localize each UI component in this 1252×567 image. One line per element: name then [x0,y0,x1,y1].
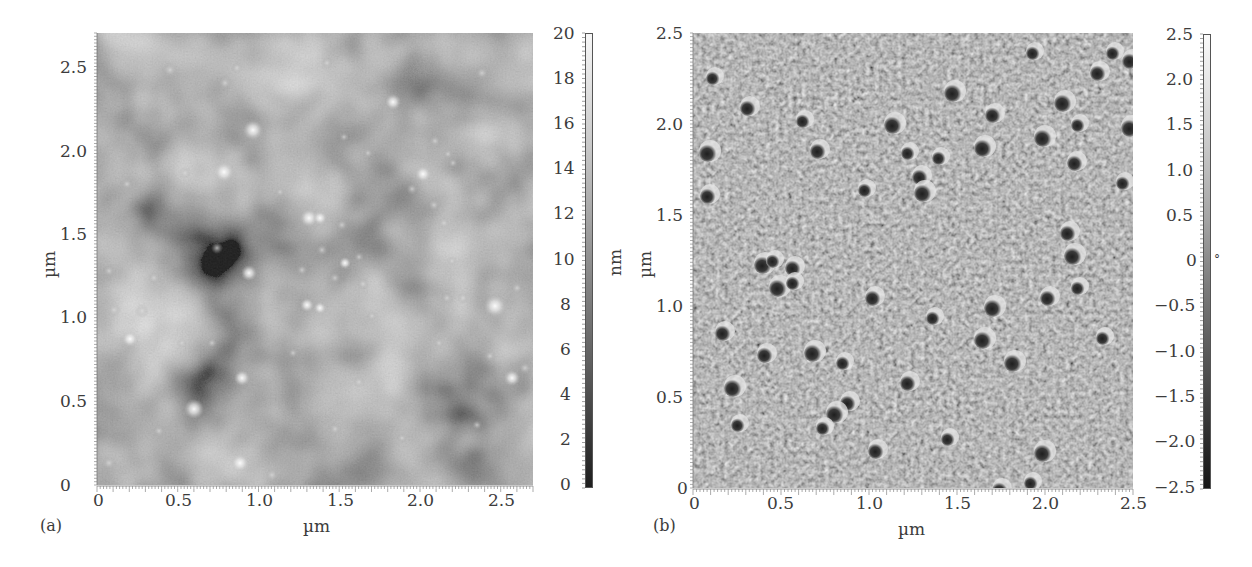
cbar-tick-label: 16 [553,115,575,132]
y-axis-ticks-a [91,33,99,486]
afm-phase-image [693,33,1133,488]
x-tick-label: 0 [689,495,700,512]
y-axis-title-b: µm [637,250,654,280]
cbar-tick-label: 1.5 [1166,116,1193,133]
x-tick-label: 1.0 [246,492,273,509]
cbar-tick-label: −2.0 [1154,433,1195,450]
cbar-tick-label: −1.5 [1154,388,1195,405]
cbar-tick-label: 8 [560,296,571,313]
colorbar-ticks-a [578,33,586,489]
colorbar-title-a: nm [607,243,624,283]
colorbar-b [1203,34,1211,489]
y-axis-ticks-b [687,33,695,489]
y-tick-label: 1.5 [60,226,87,243]
colorbar-a [585,33,593,488]
y-tick-label: 0.5 [656,389,683,406]
x-axis-ticks-b [693,488,1134,496]
cbar-tick-label: 20 [553,25,575,42]
cbar-tick-label: 0 [1186,252,1197,269]
colorbar-unit-degree: ° [1214,254,1220,266]
x-tick-label: 2.5 [1120,495,1147,512]
y-tick-label: 1.0 [656,298,683,315]
y-tick-label: 0.5 [60,393,87,410]
cbar-tick-label: 2 [560,431,571,448]
x-tick-label: 0.5 [165,492,192,509]
x-tick-label: 2.5 [488,492,515,509]
cbar-tick-label: 14 [553,160,575,177]
cbar-tick-label: −0.5 [1154,297,1195,314]
y-tick-label: 1.5 [656,207,683,224]
x-tick-label: 1.5 [327,492,354,509]
y-tick-label: 2.0 [60,143,87,160]
x-tick-label: 2.0 [407,492,434,509]
cbar-tick-label: 2.5 [1166,26,1193,43]
x-tick-label: 0.5 [767,495,794,512]
y-tick-label: 1.0 [60,309,87,326]
y-tick-label: 2.0 [656,116,683,133]
cbar-tick-label: −1.0 [1154,343,1195,360]
cbar-tick-label: 2.0 [1166,71,1193,88]
cbar-tick-label: 1.0 [1166,162,1193,179]
cbar-tick-label: 0 [560,476,571,493]
y-tick-label: 2.5 [656,25,683,42]
height-map-texture [97,33,533,485]
cbar-tick-label: 10 [553,251,575,268]
cbar-tick-label: 18 [553,70,575,87]
x-tick-label: 0 [93,492,104,509]
cbar-tick-label: 6 [560,341,571,358]
cbar-tick-label: 4 [560,386,571,403]
y-tick-label: 0 [60,477,71,494]
afm-height-image [97,33,533,485]
x-tick-label: 1.5 [944,495,971,512]
x-axis-ticks-a [97,485,534,493]
y-axis-title-a: µm [41,250,58,280]
panel-label-a: (a) [40,516,62,535]
cbar-tick-label: −2.5 [1154,479,1195,496]
x-tick-label: 2.0 [1032,495,1059,512]
cbar-tick-label: 0.5 [1166,207,1193,224]
panel-label-b: (b) [653,516,676,535]
phase-map-texture [693,33,1133,488]
y-tick-label: 0 [677,480,688,497]
x-axis-title-a: µm [303,518,330,535]
x-tick-label: 1.0 [856,495,883,512]
x-axis-title-b: µm [898,521,925,538]
cbar-tick-label: 12 [553,205,575,222]
y-tick-label: 2.5 [60,59,87,76]
colorbar-ticks-b [1196,34,1204,490]
